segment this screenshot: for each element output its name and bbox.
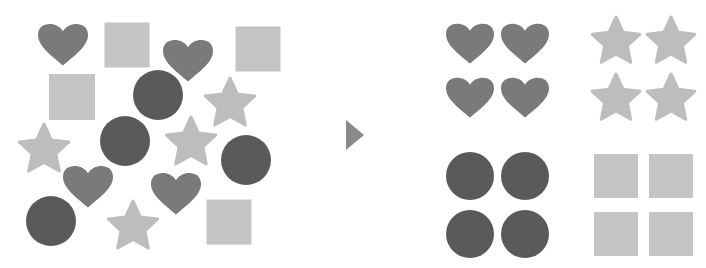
circle-icon <box>221 135 271 185</box>
diagram-canvas <box>0 0 706 268</box>
circle-icon <box>501 152 549 200</box>
heart-icon <box>446 78 494 118</box>
group-stars <box>592 17 695 119</box>
circle-icon <box>501 210 549 258</box>
group-hearts <box>446 24 549 118</box>
heart-icon <box>151 173 201 215</box>
square-icon <box>105 23 150 68</box>
group-circles <box>446 152 549 258</box>
star-icon <box>647 74 695 119</box>
star-icon <box>592 17 640 62</box>
sorted-groups <box>446 17 695 258</box>
square-icon <box>49 74 95 120</box>
heart-icon <box>446 24 494 64</box>
heart-icon <box>38 24 88 66</box>
square-icon <box>649 212 693 256</box>
heart-icon <box>501 78 549 118</box>
circle-icon <box>100 116 150 166</box>
heart-icon <box>501 24 549 64</box>
square-icon <box>207 200 252 245</box>
heart-icon <box>63 166 113 208</box>
star-icon <box>205 78 254 125</box>
triangle-right-icon <box>346 120 364 150</box>
square-icon <box>594 212 638 256</box>
circle-icon <box>446 152 494 200</box>
star-icon <box>108 201 157 248</box>
circle-icon <box>446 210 494 258</box>
star-icon <box>647 17 695 62</box>
square-icon <box>649 154 693 198</box>
star-icon <box>592 74 640 119</box>
group-squares <box>594 154 693 256</box>
square-icon <box>594 154 638 198</box>
unsorted-shapes-cluster <box>19 23 280 249</box>
star-icon <box>166 117 215 164</box>
square-icon <box>236 27 281 72</box>
circle-icon <box>26 196 76 246</box>
arrow-right-icon <box>346 120 364 150</box>
sorting-diagram: Sorting shapes into groups <box>0 0 706 268</box>
star-icon <box>19 124 68 171</box>
circle-icon <box>133 70 183 120</box>
